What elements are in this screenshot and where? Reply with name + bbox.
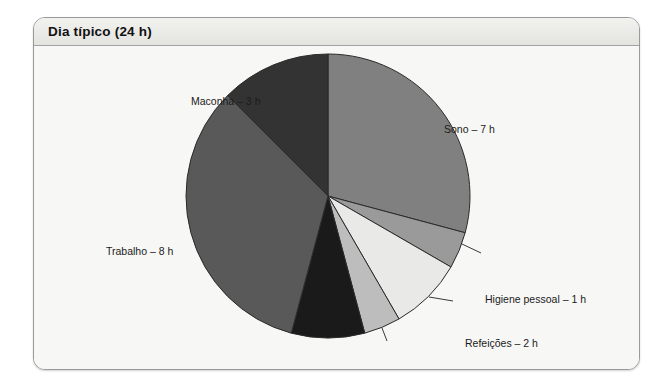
pie-chart-svg [33, 17, 640, 370]
pie-label-refeicoes: Refeições – 2 h [465, 338, 538, 349]
leader-line-televisao [382, 328, 387, 341]
pie-label-higiene-pessoal: Higiene pessoal – 1 h [485, 294, 586, 305]
chart-panel: Dia típico (24 h) Sono – 7 h Higiene pes… [33, 17, 640, 370]
leader-line-refeicoes [429, 297, 453, 301]
pie-label-trabalho: Trabalho – 8 h [106, 246, 173, 257]
pie-label-maconha: Maconha – 3 h [191, 96, 260, 107]
pie-label-sono: Sono – 7 h [444, 124, 495, 135]
leader-line-higiene [462, 244, 481, 253]
pie-chart-plot-area: Sono – 7 h Higiene pessoal – 1 h Refeiçõ… [34, 46, 639, 370]
